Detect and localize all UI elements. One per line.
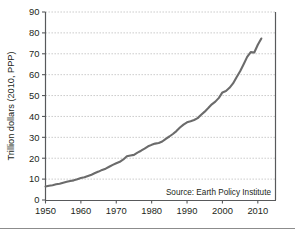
x-tick-label-2010: 2010	[247, 205, 268, 216]
y-tick-label-20: 20	[29, 153, 39, 164]
x-tick-label-1960: 1960	[70, 205, 91, 216]
y-axis-title: Trillion dollars (2010, PPP)	[6, 52, 16, 161]
y-tick-label-60: 60	[29, 69, 39, 80]
x-tick-label-1990: 1990	[177, 205, 198, 216]
y-tick-label-10: 10	[29, 173, 39, 184]
y-tick-label-80: 80	[29, 27, 39, 38]
source-label: Source: Earth Policy Institute	[166, 188, 272, 197]
y-tick-label-50: 50	[29, 90, 39, 101]
x-tick-label-1950: 1950	[35, 205, 56, 216]
y-tick-label-40: 40	[29, 111, 39, 122]
y-tick-label-30: 30	[29, 132, 39, 143]
gross-world-product-line-chart: 0102030405060708090 19501960197019801990…	[0, 0, 295, 238]
source-annotation: Source: Earth Policy Institute	[166, 185, 272, 198]
x-tick-label-2000: 2000	[212, 205, 233, 216]
x-tick-label-1980: 1980	[141, 205, 162, 216]
y-tick-label-90: 90	[29, 6, 39, 17]
x-tick-label-1970: 1970	[106, 205, 127, 216]
chart-background	[0, 0, 295, 238]
y-tick-label-0: 0	[34, 194, 39, 205]
chart-figure: 0102030405060708090 19501960197019801990…	[0, 0, 295, 238]
y-tick-label-70: 70	[29, 48, 39, 59]
